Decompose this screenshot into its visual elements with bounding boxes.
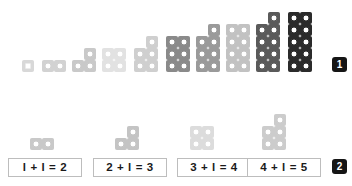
tile-dot (87, 63, 94, 70)
tile (202, 126, 214, 138)
tile (114, 60, 126, 72)
tile-dot (291, 27, 298, 34)
equation-box-2: 2 + l = 3 (93, 158, 167, 177)
tile-dot (271, 15, 278, 22)
bottom-figure-2 (115, 126, 139, 150)
tile-dot (149, 51, 156, 58)
top-figure-2 (42, 60, 66, 72)
tile-dot (199, 39, 206, 46)
tile (288, 60, 300, 72)
tile-dot (118, 141, 125, 148)
tile-dot (87, 51, 94, 58)
tile (166, 36, 178, 48)
tile (54, 60, 66, 72)
tile (274, 126, 286, 138)
tile-dot (241, 63, 248, 70)
tile-dot (130, 141, 137, 148)
tile (196, 60, 208, 72)
tile-dot (130, 129, 137, 136)
tile-dot (205, 141, 212, 148)
tile (72, 60, 84, 72)
bottom-figure-3 (190, 126, 214, 150)
tile (196, 36, 208, 48)
tile-dot (291, 51, 298, 58)
tile (268, 24, 280, 36)
tile-dot (303, 15, 310, 22)
tile-dot (259, 39, 266, 46)
tile-dot (181, 51, 188, 58)
tile (166, 60, 178, 72)
tile (256, 24, 268, 36)
tile-dot (169, 39, 176, 46)
tile (22, 60, 34, 72)
tile-dot (193, 129, 200, 136)
tile-dot (229, 39, 236, 46)
top-figure-7 (196, 24, 220, 72)
tile-dot (271, 63, 278, 70)
tile-dot (45, 63, 52, 70)
tile (256, 48, 268, 60)
tile (226, 36, 238, 48)
top-figure-10 (288, 12, 312, 72)
tile-dot (149, 39, 156, 46)
tile-dot (45, 141, 52, 148)
tile-dot (57, 63, 64, 70)
section-badge-2: 2 (332, 159, 347, 174)
tile (42, 138, 54, 150)
tile (256, 36, 268, 48)
worksheet-page: 1 l + l = 2 2 + l = 3 3 + l = 4 4 + l = … (0, 0, 352, 186)
tile (127, 126, 139, 138)
tile (288, 12, 300, 24)
tile-dot (229, 51, 236, 58)
tile-dot (291, 63, 298, 70)
tile (256, 60, 268, 72)
bottom-figure-4 (262, 114, 286, 150)
tile (208, 24, 220, 36)
tile-dot (211, 39, 218, 46)
tile (42, 60, 54, 72)
tile-dot (303, 39, 310, 46)
tile-dot (277, 129, 284, 136)
tile (208, 48, 220, 60)
tile (178, 60, 190, 72)
tile (146, 36, 158, 48)
tile (274, 138, 286, 150)
tile-dot (303, 63, 310, 70)
tile-dot (181, 39, 188, 46)
tile (268, 60, 280, 72)
tile-dot (137, 63, 144, 70)
tile (300, 24, 312, 36)
tile (262, 138, 274, 150)
tile-dot (169, 51, 176, 58)
tile (102, 48, 114, 60)
top-figure-8 (226, 24, 250, 72)
tile-dot (303, 51, 310, 58)
tile-dot (241, 27, 248, 34)
tile (268, 36, 280, 48)
tile-dot (193, 141, 200, 148)
tile-dot (211, 27, 218, 34)
tile-dot (303, 27, 310, 34)
tile (288, 36, 300, 48)
tile-dot (259, 51, 266, 58)
tile-dot (265, 129, 272, 136)
tile-dot (117, 51, 124, 58)
top-figure-6 (166, 36, 190, 72)
tile (226, 60, 238, 72)
tile (178, 36, 190, 48)
tile-dot (291, 39, 298, 46)
tile-dot (271, 27, 278, 34)
tile (268, 12, 280, 24)
tile-dot (211, 63, 218, 70)
tile-dot (199, 63, 206, 70)
tile (268, 48, 280, 60)
equation-box-3: 3 + l = 4 (177, 158, 251, 177)
tile (190, 126, 202, 138)
tile-inner (25, 63, 32, 70)
tile (288, 48, 300, 60)
tile (226, 48, 238, 60)
tile-dot (241, 51, 248, 58)
tile (300, 48, 312, 60)
tile (84, 60, 96, 72)
tile-dot (105, 51, 112, 58)
